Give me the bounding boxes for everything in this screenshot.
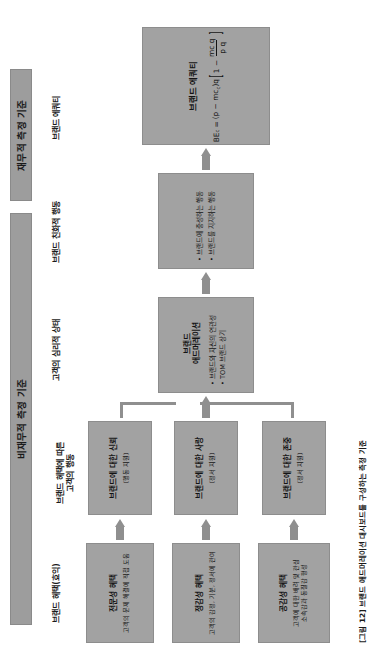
formula-one-minus: 1 − <box>212 60 221 73</box>
arrow-admiration-to-behavior-head <box>201 272 211 280</box>
arrow-enabling-to-trust-shaft <box>116 527 124 540</box>
box-love: 브랜드에 대한 사랑 (정서 지원) <box>174 421 238 515</box>
connector-respect-horizontal <box>291 402 294 418</box>
column-label-psych-state-text: 고객의 심리적 상태 <box>52 319 61 381</box>
box-admiration: 브랜드 애드머레이션 • 브랜드와 자신의 연관성 • TOM 브랜드 상기 <box>158 297 254 393</box>
diagram-canvas: 비재무적 측정 기준 재무적 측정 기준 브랜드 혜택(효익) 브랜드 혜택에 … <box>0 0 380 671</box>
arrow-enabling-to-trust-head <box>115 519 125 527</box>
connector-respect-vertical <box>200 402 294 405</box>
formula-frac-denominator: p q <box>216 40 227 56</box>
box-admiration-bullet-1: • TOM 브랜드 상기 <box>219 301 228 385</box>
column-label-customer-behavior: 브랜드 혜택에 따른 고객의 행동 <box>46 421 76 525</box>
box-trust: 브랜드에 대한 신뢰 (행동 지원) <box>88 421 152 515</box>
arrow-behavior-to-equity-shaft <box>202 156 210 170</box>
box-benefit-enticing-sub: 고객의 감정, 기분, 정서에 관여 <box>208 551 216 635</box>
figure-caption-text: [그림 12] 브랜드 애드머레이션 대시보드를 구성하는 측정 기준 <box>358 440 367 643</box>
box-respect-sub: (정서 지원) <box>296 453 304 484</box>
box-behavior-bullet-1: • 브랜드를 지지하는 행동 <box>208 191 217 261</box>
box-benefit-enticing-title: 정감성 혜택 <box>195 574 205 612</box>
box-benefit-enriching-title: 공감성 혜택 <box>279 574 289 612</box>
column-label-benefits: 브랜드 혜택(효익) <box>52 543 62 643</box>
box-benefit-enabling: 전문성 혜택 고객의 문제 해결에 직접 도움 <box>86 543 154 643</box>
formula-equals: = <box>212 121 221 127</box>
arrow-enriching-to-respect-shaft <box>290 527 298 540</box>
box-brand-equity: 브랜드 에쿼티 BEc = (p − mcc)q [ 1 − mc q p q … <box>142 27 270 145</box>
arrow-enticing-to-love-head <box>201 519 211 527</box>
box-trust-title: 브랜드에 대한 신뢰 <box>109 437 119 498</box>
column-label-brand-friendly: 브랜드 친화적 행동 <box>52 179 62 285</box>
box-love-title: 브랜드에 대한 사랑 <box>195 437 205 498</box>
rotated-figure-wrapper: 비재무적 측정 기준 재무적 측정 기준 브랜드 혜택(효익) 브랜드 혜택에 … <box>0 0 380 671</box>
arrow-love-to-admiration-head <box>201 396 211 404</box>
formula-fraction: mc q p q <box>207 37 227 59</box>
column-label-brand-equity: 브랜드 에쿼티 <box>52 65 62 171</box>
formula-lhs: BE <box>212 133 221 143</box>
arrow-behavior-to-equity-head <box>201 148 211 156</box>
connector-trust-vertical <box>120 402 176 405</box>
box-benefit-enriching: 공감성 혜택 고객에 대한 배려 및 관심 소속감과 동질감 형성 <box>258 543 330 643</box>
band-financial: 재무적 측정 기준 <box>10 69 32 201</box>
column-label-customer-behavior-text: 브랜드 혜택에 따른 고객의 행동 <box>56 442 75 504</box>
column-label-brand-friendly-text: 브랜드 친화적 행동 <box>52 201 61 263</box>
box-benefit-enticing: 정감성 혜택 고객의 감정, 기분, 정서에 관여 <box>172 543 240 643</box>
box-behavior-bullet-0: • 브랜드에 충성하는 행동 <box>196 191 205 261</box>
column-label-psych-state: 고객의 심리적 상태 <box>52 297 62 403</box>
arrow-enriching-to-respect-head <box>289 519 299 527</box>
arrow-enticing-to-love-shaft <box>202 527 210 540</box>
box-brand-equity-title: 브랜드 에쿼티 <box>186 61 198 112</box>
box-benefit-enabling-title: 전문성 혜택 <box>109 574 119 612</box>
box-brand-friendly-behavior: • 브랜드에 충성하는 행동 • 브랜드를 지지하는 행동 <box>158 173 254 269</box>
box-trust-sub: (행동 지원) <box>122 453 130 484</box>
figure-caption: [그림 12] 브랜드 애드머레이션 대시보드를 구성하는 측정 기준 <box>356 440 367 643</box>
band-nonfinancial: 비재무적 측정 기준 <box>10 213 32 625</box>
formula-group: (p − mcc)q <box>211 79 221 119</box>
box-love-sub: (정서 지원) <box>208 453 216 484</box>
arrow-admiration-to-behavior-shaft <box>202 280 210 294</box>
formula-lhs-sub: c <box>214 130 220 133</box>
band-financial-label: 재무적 측정 기준 <box>14 99 28 170</box>
formula-bracket-right: ] <box>211 31 222 34</box>
box-respect-title: 브랜드에 대한 존중 <box>283 437 293 498</box>
brand-equity-formula: BEc = (p − mcc)q [ 1 − mc q p q ] <box>207 30 227 143</box>
arrow-love-to-admiration-shaft <box>202 404 210 418</box>
formula-bracket-left: [ <box>211 74 222 77</box>
column-label-brand-equity-text: 브랜드 에쿼티 <box>52 96 61 141</box>
box-admiration-title: 브랜드 애드머레이션 <box>183 322 203 364</box>
box-admiration-bullet-0: • 브랜드와 자신의 연관성 <box>209 301 218 385</box>
box-benefit-enriching-sub: 고객에 대한 배려 및 관심 소속감과 동질감 형성 <box>292 559 309 627</box>
column-label-benefits-text: 브랜드 혜택(효익) <box>52 563 61 622</box>
box-respect: 브랜드에 대한 존중 (정서 지원) <box>262 421 326 515</box>
band-nonfinancial-label: 비재무적 측정 기준 <box>14 379 28 460</box>
formula-frac-numerator: mc q <box>207 37 217 59</box>
connector-trust-horizontal <box>120 402 123 418</box>
box-benefit-enabling-sub: 고객의 문제 해결에 직접 도움 <box>122 553 130 633</box>
